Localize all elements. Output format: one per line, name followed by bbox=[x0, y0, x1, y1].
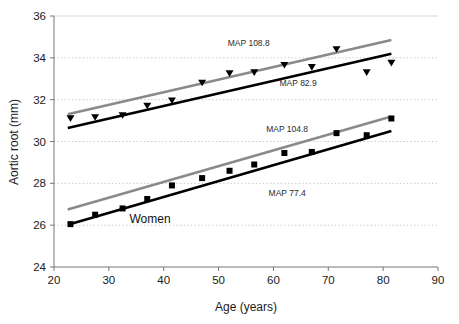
data-point-women bbox=[281, 150, 287, 156]
data-point-women bbox=[169, 182, 175, 188]
annotation-map-82-9: MAP 82.9 bbox=[280, 78, 317, 88]
regression-line-map-108-8 bbox=[68, 40, 392, 114]
data-point-women bbox=[388, 115, 394, 121]
chart-canvas: 24262830323436 2030405060708090 MAP 108.… bbox=[0, 0, 459, 324]
data-point-women bbox=[227, 168, 233, 174]
y-axis-tick-labels: 24262830323436 bbox=[33, 10, 46, 273]
data-point-women bbox=[251, 162, 257, 168]
x-tick-label-50: 50 bbox=[212, 274, 225, 286]
x-tick-label-40: 40 bbox=[157, 274, 170, 286]
data-point-women bbox=[120, 205, 126, 211]
x-axis-title: Age (years) bbox=[215, 300, 277, 314]
data-point-men bbox=[363, 69, 371, 76]
regression-lines bbox=[68, 40, 392, 224]
x-tick-label-80: 80 bbox=[377, 274, 390, 286]
y-tick-label-24: 24 bbox=[33, 261, 46, 273]
data-point-women bbox=[199, 175, 205, 181]
annotation-women-label: Women bbox=[129, 212, 170, 226]
y-axis-title: Aortic root (mm) bbox=[7, 99, 21, 185]
y-tick-label-34: 34 bbox=[33, 52, 46, 64]
x-tick-label-60: 60 bbox=[267, 274, 280, 286]
x-tick-label-20: 20 bbox=[48, 274, 61, 286]
y-tick-label-26: 26 bbox=[33, 219, 46, 231]
regression-line-map-77-4 bbox=[70, 131, 391, 224]
y-tick-label-28: 28 bbox=[33, 177, 46, 189]
data-point-women bbox=[92, 212, 98, 218]
axis-lines bbox=[50, 16, 438, 271]
data-point-women bbox=[144, 196, 150, 202]
x-axis-tick-labels: 2030405060708090 bbox=[48, 274, 445, 286]
data-point-women bbox=[309, 149, 315, 155]
x-tick-label-90: 90 bbox=[432, 274, 445, 286]
data-point-men bbox=[66, 115, 74, 122]
regression-line-map-82-9 bbox=[68, 54, 392, 128]
x-tick-label-70: 70 bbox=[322, 274, 335, 286]
data-point-men bbox=[387, 60, 395, 67]
data-point-women bbox=[334, 130, 340, 136]
y-tick-label-30: 30 bbox=[33, 136, 46, 148]
annotation-map-104-8: MAP 104.8 bbox=[266, 124, 308, 134]
annotation-map-77-4: MAP 77.4 bbox=[269, 188, 306, 198]
regression-line-map-104-8 bbox=[68, 116, 392, 209]
annotation-map-108-8: MAP 108.8 bbox=[228, 38, 270, 48]
y-tick-label-32: 32 bbox=[33, 94, 46, 106]
data-point-men bbox=[308, 64, 316, 71]
x-tick-label-30: 30 bbox=[102, 274, 115, 286]
data-point-women bbox=[67, 221, 73, 227]
y-tick-label-36: 36 bbox=[33, 10, 46, 22]
data-point-markers bbox=[66, 46, 395, 227]
aortic-root-vs-age-chart: 24262830323436 2030405060708090 MAP 108.… bbox=[0, 0, 459, 324]
data-point-women bbox=[364, 132, 370, 138]
